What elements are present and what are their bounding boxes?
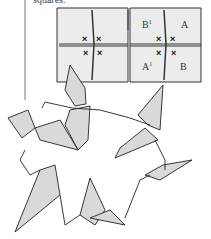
svg-text:×: × — [156, 34, 161, 44]
left-panel — [57, 8, 128, 82]
svg-text:×: × — [156, 48, 161, 58]
svg-text:×: × — [97, 48, 102, 58]
svg-text:×: × — [171, 48, 176, 58]
svg-text:×: × — [82, 34, 87, 44]
svg-text:×: × — [96, 34, 101, 44]
svg-text:×: × — [83, 48, 88, 58]
svg-text:A: A — [181, 19, 189, 30]
crane-ring — [8, 65, 192, 232]
right-panel — [130, 8, 201, 82]
svg-text:×: × — [170, 34, 175, 44]
origami-diagram: ×× ×× ×× ×× B1 A A1 B — [0, 0, 211, 239]
svg-text:B: B — [180, 61, 187, 72]
